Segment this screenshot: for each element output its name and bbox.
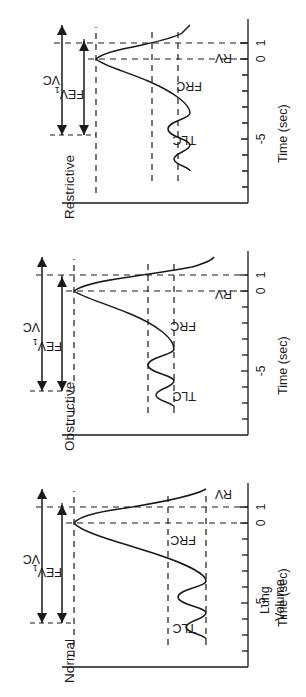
marker-label-frc-normal: FRC [170,533,196,547]
tick-label-1: 1 [254,39,268,46]
marker-label-rv-normal: RV [215,487,232,501]
time-axis-ticks [240,275,248,419]
time-axis-tick-labels: -5 0 1 [254,271,268,376]
marker-label-tlc-restrictive: TLC [172,133,196,147]
spirogram-figure: Normal -5 [0,0,306,697]
tick-label-minus5: -5 [254,133,268,144]
marker-label-tlc-normal: TLC [172,621,196,635]
panel-obstructive: Obstructive -5 0 1 [0,233,306,465]
x-axis-label-restrictive: Time (sec) [276,104,290,163]
time-axis-tick-labels: -5 0 1 [254,39,268,144]
measure-label-fev1-normal: FEV1 [33,563,62,580]
measure-label-fev1-obstructive: FEV1 [33,337,62,354]
marker-label-rv-obstructive: RV [215,287,232,301]
time-axis-ticks [240,43,248,187]
tick-label-minus5: -5 [254,365,268,376]
fev1-measure [57,277,67,391]
tick-label-0: 0 [254,519,268,526]
reference-lines [96,27,178,193]
measure-label-fev-subscript: 1 [55,85,60,95]
measure-label-vc-obstructive: VC [23,320,40,334]
marker-label-frc-restrictive: FRC [176,79,202,93]
measure-label-fev-text: FEV [38,565,62,579]
tick-label-0: 0 [254,55,268,62]
time-reference-lines [36,507,248,523]
plot-restrictive: -5 0 1 [0,1,306,233]
marker-label-tlc-obstructive: TLC [172,389,196,403]
marker-label-rv-restrictive: RV [215,51,232,65]
marker-label-frc-obstructive: FRC [170,319,196,333]
tick-label-1: 1 [254,503,268,510]
measure-label-fev1-restrictive: FEV1 [55,85,84,102]
spirogram-trace-normal [74,489,206,639]
measure-label-fev-text: FEV [60,87,84,101]
tick-label-0: 0 [254,287,268,294]
measure-label-fev-text: FEV [38,339,62,353]
time-axis-ticks [240,507,248,651]
x-axis-label-obstructive: Time (sec) [276,336,290,395]
measure-label-fev-subscript: 1 [33,337,38,347]
tick-label-1: 1 [254,271,268,278]
spirogram-trace-restrictive [96,25,190,171]
measure-label-fev-subscript: 1 [33,563,38,573]
panel-restrictive: Restrictive -5 0 1 [0,1,306,233]
y-axis-label-lung-volume: Lung Volume [258,579,287,621]
